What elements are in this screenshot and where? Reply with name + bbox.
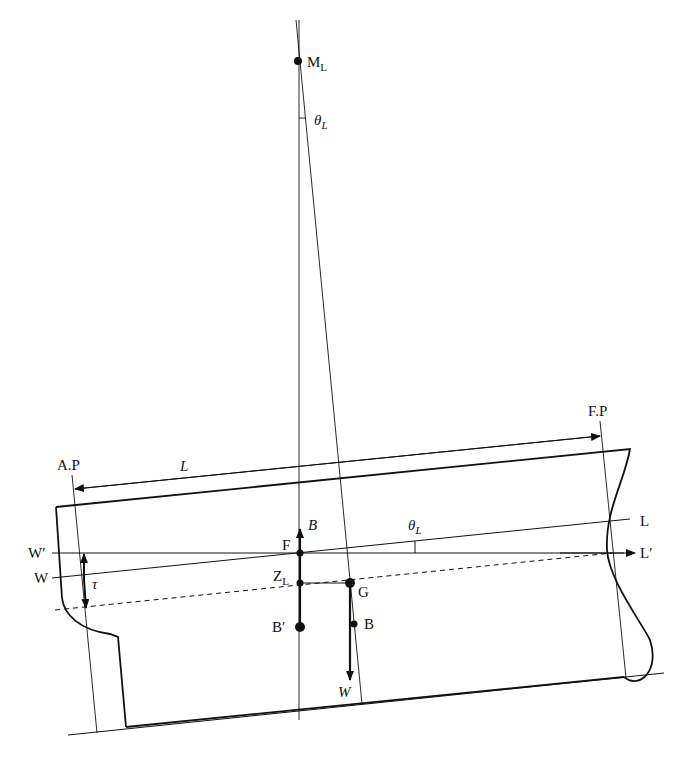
forward-perpendicular-line — [600, 421, 626, 678]
label-F: F — [282, 537, 290, 553]
point-G — [345, 578, 355, 588]
hull-outline — [56, 449, 653, 727]
inclined-axis-M — [296, 20, 362, 704]
point-ML — [294, 57, 302, 65]
aft-perpendicular-line — [72, 475, 97, 733]
waterline-dashed — [55, 553, 612, 610]
label-theta-mid: θL — [408, 517, 422, 536]
label-B: B — [364, 616, 374, 632]
label-G: G — [358, 584, 369, 600]
waterline-old-WL — [52, 519, 630, 578]
label-ZL: ZL — [273, 568, 289, 587]
keel-line — [68, 673, 664, 735]
label-W-force: W — [338, 684, 352, 700]
label-W: W — [34, 570, 49, 586]
point-F — [297, 550, 304, 557]
point-Bp — [295, 622, 305, 632]
label-ML: ML — [307, 54, 327, 73]
point-ZL — [297, 580, 304, 587]
label-tau: τ — [92, 576, 98, 592]
label-AP: A.P — [57, 457, 80, 473]
point-B — [351, 621, 358, 628]
label-Lprime: L′ — [640, 545, 652, 561]
label-length: L — [179, 458, 188, 474]
label-Wprime: W′ — [28, 545, 45, 561]
label-theta-top: θL — [314, 112, 328, 131]
label-B-force: B — [308, 517, 317, 533]
trim-diagram: ML θL A.P F.P L B F θL W′ W L L′ τ ZL G … — [0, 0, 684, 761]
label-L: L — [640, 513, 649, 529]
label-Bprime: B′ — [272, 619, 285, 635]
label-FP: F.P — [588, 403, 607, 419]
